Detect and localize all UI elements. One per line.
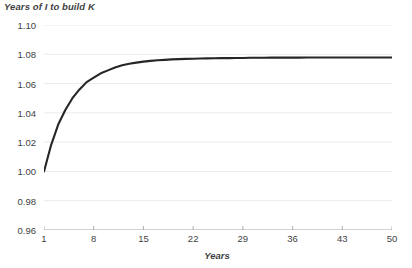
y-axis-tick-label: 1.08 bbox=[18, 49, 37, 60]
x-axis-tick-label: 8 bbox=[91, 233, 96, 244]
y-axis-tick-label: 1.04 bbox=[18, 107, 37, 118]
plot-area bbox=[44, 25, 392, 230]
y-axis-tick-label: 1.06 bbox=[18, 78, 37, 89]
x-axis-tick-label: 29 bbox=[238, 233, 249, 244]
y-axis-tick-label: 1.00 bbox=[18, 166, 37, 177]
x-axis-tick-label: 36 bbox=[287, 233, 298, 244]
x-axis-tick-label: 43 bbox=[337, 233, 348, 244]
y-axis-tick-label: 0.96 bbox=[18, 225, 37, 236]
y-axis-tick-labels: 0.960.981.001.021.041.061.081.10 bbox=[0, 25, 40, 230]
x-axis-title: Years bbox=[0, 250, 412, 261]
x-axis-tick-label: 15 bbox=[138, 233, 149, 244]
x-axis-tick-labels: 18152229364350 bbox=[44, 233, 392, 247]
chart-title: Years of I to build K bbox=[4, 1, 95, 12]
chart-container: Years of I to build K 0.960.981.001.021.… bbox=[0, 0, 412, 268]
x-axis-tick-label: 1 bbox=[41, 233, 46, 244]
y-axis-tick-label: 1.10 bbox=[18, 20, 37, 31]
y-axis-tick-label: 1.02 bbox=[18, 137, 37, 148]
line-series bbox=[44, 25, 392, 230]
y-axis-tick-label: 0.98 bbox=[18, 195, 37, 206]
x-axis-tick-label: 22 bbox=[188, 233, 199, 244]
series-line bbox=[44, 58, 392, 172]
x-axis-tick-label: 50 bbox=[387, 233, 398, 244]
